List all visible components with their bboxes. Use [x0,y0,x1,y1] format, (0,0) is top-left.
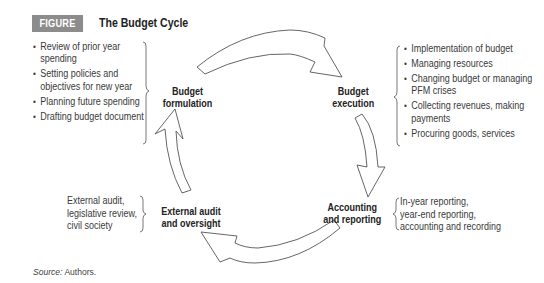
stage-budget-formulation: Budget formulation [163,86,213,111]
execution-details-list: Implementation of budget Managing resour… [404,43,539,143]
source-label: Source: [33,266,62,277]
stage-accounting-reporting: Accounting and reporting [323,202,381,227]
list-item: Setting policies and objectives for new … [33,68,146,93]
list-item: Drafting budget document [33,111,146,123]
stage-formulation-line2: formulation [163,98,213,110]
audit-detail-line1: External audit, [67,195,137,208]
stage-budget-execution: Budget execution [332,86,374,111]
arrow-formulation-to-execution [197,30,342,77]
source-text: Authors. [62,266,96,277]
list-item: Collecting revenues, making payments [404,100,539,125]
stage-external-audit: External audit and oversight [161,206,221,231]
accounting-details: In-year reporting, year-end reporting, a… [400,196,501,234]
stage-accounting-line1: Accounting [323,202,381,214]
list-item: Implementation of budget [404,43,539,55]
brace-accounting [393,198,399,230]
audit-details: External audit, legislative review, civi… [67,195,137,233]
list-item: Procuring goods, services [404,128,539,140]
list-item: Planning future spending [33,96,146,108]
brace-audit [140,196,146,232]
accounting-detail-line3: accounting and recording [400,221,501,234]
stage-audit-line1: External audit [161,206,221,218]
source-note: Source: Authors. [33,266,96,277]
stage-accounting-line2: and reporting [323,214,381,226]
stage-execution-line2: execution [332,98,374,110]
audit-detail-line2: legislative review, [67,208,137,221]
arrow-accounting-to-audit [201,220,340,263]
list-item: Changing budget or managing PFM crises [404,73,539,98]
accounting-detail-line1: In-year reporting, [400,196,501,209]
arrow-execution-to-accounting [355,114,385,197]
stage-audit-line2: and oversight [161,218,221,230]
brace-execution [394,46,400,146]
formulation-details-list: Review of prior year spending Setting po… [33,41,146,126]
audit-detail-line3: civil society [67,220,137,233]
accounting-detail-line2: year-end reporting, [400,209,501,222]
stage-execution-line1: Budget [332,86,374,98]
list-item: Review of prior year spending [33,41,146,66]
stage-formulation-line1: Budget [163,86,213,98]
list-item: Managing resources [404,58,539,70]
arrow-audit-to-formulation [155,109,191,193]
